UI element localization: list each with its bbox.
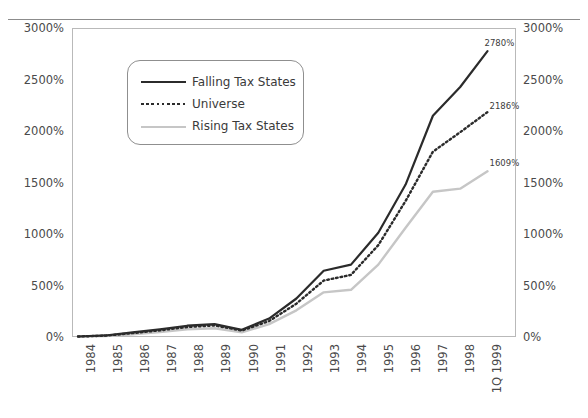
legend-item-rising-tax-states: Rising Tax States <box>141 117 294 135</box>
chart-legend: Falling Tax States Universe Rising Tax S… <box>127 60 304 145</box>
data-label-universe: 2186% <box>490 102 520 111</box>
series-line-universe <box>78 112 488 336</box>
legend-label: Falling Tax States <box>192 76 296 88</box>
legend-item-falling-tax-states: Falling Tax States <box>141 73 296 91</box>
data-label-falling-tax-states: 2780% <box>485 39 515 48</box>
legend-swatch-solid-dark-icon <box>141 77 186 87</box>
legend-swatch-solid-light-icon <box>141 121 186 131</box>
data-label-rising-tax-states: 1609% <box>490 159 520 168</box>
legend-swatch-dotted-dark-icon <box>141 99 186 109</box>
legend-label: Universe <box>192 98 245 110</box>
legend-label: Rising Tax States <box>192 120 294 132</box>
series-line-rising-tax-states <box>78 171 488 336</box>
line-chart: 3000% 2500% 2000% 1500% 1000% 500% 0% 30… <box>0 0 588 418</box>
legend-item-universe: Universe <box>141 95 245 113</box>
